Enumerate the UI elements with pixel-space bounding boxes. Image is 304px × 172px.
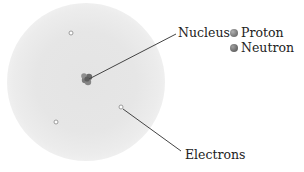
electron [119, 105, 123, 109]
proton-legend-icon [230, 29, 238, 37]
electrons-label: Electrons [185, 148, 246, 162]
nucleus-label: Nucleus [178, 26, 230, 40]
proton-legend-label: Proton [241, 26, 284, 40]
nucleus [81, 73, 92, 85]
neutron-legend-icon [230, 44, 238, 52]
electron [69, 31, 73, 35]
electrons-leader-line [123, 109, 181, 151]
neutron-legend-label: Neutron [241, 41, 294, 55]
atom-diagram: Nucleus Proton Neutron Electrons [0, 0, 304, 172]
nucleus-leader-line [89, 34, 176, 79]
electron [54, 120, 58, 124]
